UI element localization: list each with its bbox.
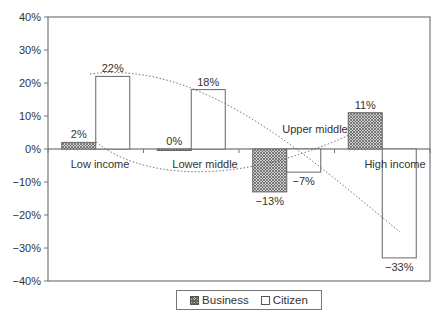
bar-business (253, 149, 287, 192)
value-label: −13% (256, 195, 285, 207)
value-label: 2% (71, 128, 87, 140)
y-tick-label: 40% (19, 11, 41, 23)
y-axis: 40%30%20%10%0%−10%−20%−30%−40% (13, 11, 48, 287)
trendlines (90, 73, 400, 232)
value-label: 18% (197, 76, 219, 88)
bar-business (157, 149, 191, 151)
bar-chart: 40%30%20%10%0%−10%−20%−30%−40% Low incom… (0, 0, 442, 290)
value-label: −33% (385, 261, 414, 273)
y-tick-label: 20% (19, 77, 41, 89)
category-label: Upper middle (282, 123, 347, 135)
y-tick-label: −40% (13, 275, 42, 287)
legend-label-citizen: Citizen (273, 294, 308, 306)
bar-citizen (191, 90, 225, 149)
bar-citizen (96, 76, 130, 149)
y-tick-label: −20% (13, 209, 42, 221)
bar-business (62, 142, 96, 149)
category-label: Lower middle (172, 158, 237, 170)
y-tick-label: −10% (13, 176, 42, 188)
bar-citizen (287, 149, 321, 172)
category-label: Low income (71, 158, 130, 170)
legend-item-business: Business (190, 294, 249, 306)
trendline-citizen (90, 73, 400, 232)
value-label: 0% (166, 135, 182, 147)
y-tick-label: 0% (25, 143, 41, 155)
bar-business (348, 113, 382, 149)
category-label: High income (364, 158, 425, 170)
business-swatch-icon (190, 296, 199, 305)
y-tick-label: −30% (13, 242, 42, 254)
value-label: 22% (102, 62, 124, 74)
legend-label-business: Business (202, 294, 249, 306)
legend-item-citizen: Citizen (261, 294, 308, 306)
y-tick-label: 30% (19, 44, 41, 56)
y-tick-label: 10% (19, 110, 41, 122)
legend: Business Citizen (176, 290, 322, 310)
citizen-swatch-icon (261, 296, 270, 305)
value-label: −7% (293, 175, 316, 187)
value-label: 11% (355, 99, 376, 111)
